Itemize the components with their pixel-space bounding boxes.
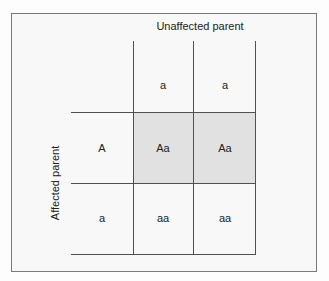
grid-vline-3 <box>255 41 256 254</box>
row-parent-title: Affected parent <box>49 146 61 220</box>
offspring-cell-r0c0: Aa <box>133 142 193 154</box>
offspring-cell-r1c1: aa <box>195 212 255 224</box>
grid-vline-2 <box>193 41 194 254</box>
column-allele-1: a <box>133 79 193 91</box>
grid-hline-3 <box>71 254 256 255</box>
grid-hline-1 <box>71 112 256 113</box>
offspring-cell-r0c1: Aa <box>195 142 255 154</box>
column-parent-title: Unaffected parent <box>140 20 260 32</box>
grid-hline-2 <box>71 183 256 184</box>
row-allele-2: a <box>72 212 132 224</box>
offspring-cell-r1c0: aa <box>133 212 193 224</box>
column-allele-2: a <box>195 79 255 91</box>
row-allele-1: A <box>72 142 132 154</box>
